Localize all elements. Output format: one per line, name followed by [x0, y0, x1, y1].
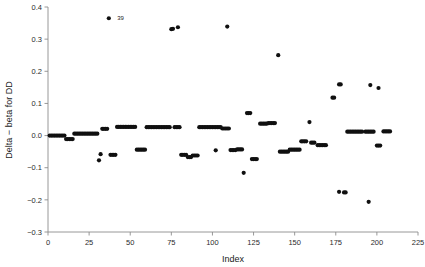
scatter-plot-figure: −0.3−0.2−0.10.00.10.20.30.4 025507510012…	[0, 0, 425, 267]
data-point	[324, 143, 328, 147]
x-tick-label: 225	[412, 238, 425, 247]
y-tick-label: 0.1	[32, 99, 42, 108]
y-tick-label: 0.4	[32, 3, 42, 12]
point-annotation-label: 39	[117, 15, 124, 21]
data-point	[276, 53, 280, 57]
data-point	[171, 27, 175, 31]
data-point	[332, 96, 336, 100]
data-point	[71, 137, 75, 141]
data-point	[214, 148, 218, 152]
data-point	[113, 153, 117, 157]
data-point	[298, 148, 302, 152]
data-point	[312, 141, 316, 145]
point-annotations: 39	[117, 15, 124, 21]
x-tick-label: 150	[288, 238, 301, 247]
x-axis-label: Index	[222, 254, 245, 264]
x-tick-label: 0	[46, 238, 50, 247]
data-point	[378, 143, 382, 147]
data-point	[107, 16, 111, 20]
x-tick-label: 75	[167, 238, 175, 247]
data-point	[339, 82, 343, 86]
data-point	[367, 200, 371, 204]
data-point	[168, 125, 172, 129]
x-tick-label: 175	[330, 238, 343, 247]
data-point	[388, 129, 392, 133]
data-point	[242, 171, 246, 175]
y-tick-label: 0.0	[32, 131, 42, 140]
x-tick-label: 25	[85, 238, 93, 247]
y-tick-label: 0.3	[32, 35, 42, 44]
y-tick-label: −0.1	[27, 163, 42, 172]
data-point	[255, 157, 259, 161]
data-point	[177, 125, 181, 129]
data-point	[227, 126, 231, 130]
x-tick-label: 125	[247, 238, 260, 247]
data-point	[368, 83, 372, 87]
data-point	[337, 190, 341, 194]
data-point	[95, 132, 99, 136]
x-tick-label: 50	[126, 238, 134, 247]
y-tick-label: 0.2	[32, 67, 42, 76]
data-point	[376, 86, 380, 90]
data-point	[248, 111, 252, 115]
data-point	[133, 125, 137, 129]
data-point	[273, 121, 277, 125]
data-point	[372, 130, 376, 134]
data-point	[307, 120, 311, 124]
y-tick-label: −0.3	[27, 228, 42, 237]
y-axis-label: Delta − beta for DD	[4, 81, 14, 159]
data-point	[225, 25, 229, 29]
data-point	[344, 190, 348, 194]
data-point	[304, 139, 308, 143]
data-point	[97, 158, 101, 162]
x-tick-label: 200	[371, 238, 384, 247]
y-tick-label: −0.2	[27, 196, 42, 205]
x-tick-label: 100	[206, 238, 219, 247]
data-point	[176, 25, 180, 29]
data-point	[143, 148, 147, 152]
data-point	[105, 127, 109, 131]
data-point	[99, 152, 103, 156]
data-point	[240, 147, 244, 151]
data-point	[196, 153, 200, 157]
